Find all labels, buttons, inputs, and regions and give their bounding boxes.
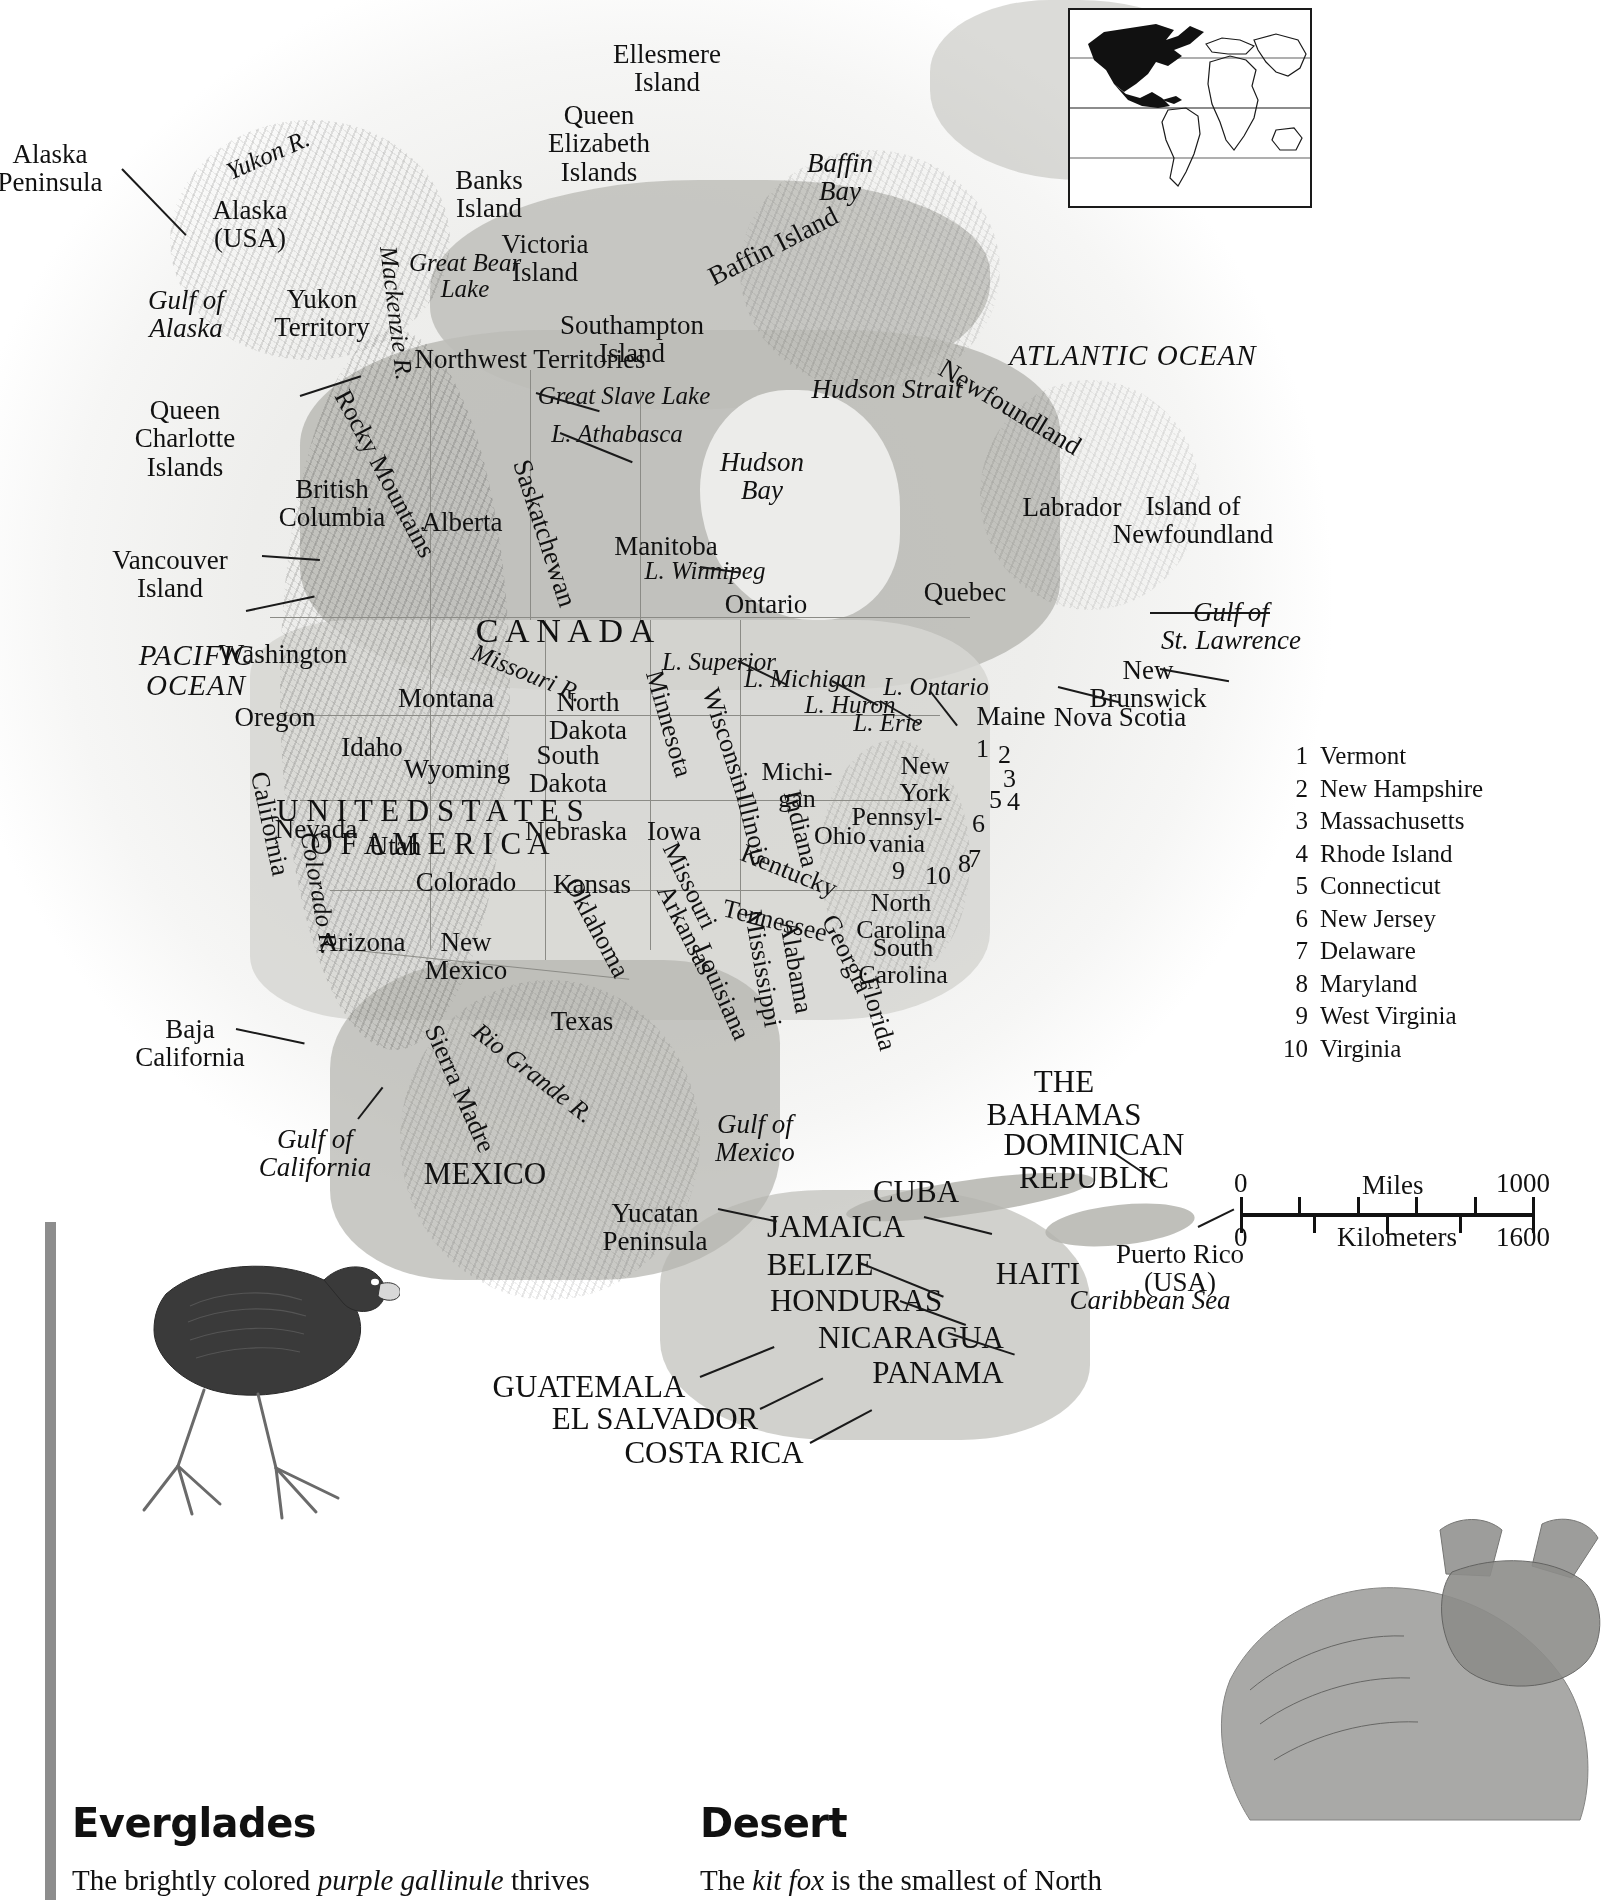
- label-line-1: Texas: [551, 1007, 614, 1035]
- label-line-1: L. Athabasca: [551, 421, 683, 447]
- leader-line: [1150, 612, 1270, 614]
- label-line-1: New: [1090, 656, 1207, 684]
- legend-row: 1Vermont: [1270, 740, 1483, 773]
- label-line-1: South: [858, 934, 948, 961]
- border-state-vertical-1: [430, 620, 431, 950]
- legend-row: 9West Virginia: [1270, 1000, 1483, 1033]
- scale-miles-max: 1000: [1496, 1169, 1550, 1197]
- label-alberta: Alberta: [422, 508, 503, 536]
- label-line-1: Victoria: [502, 230, 589, 258]
- legend-label: West Virginia: [1320, 1000, 1457, 1033]
- legend-row: 5Connecticut: [1270, 870, 1483, 903]
- label-line-2: St. Lawrence: [1161, 626, 1301, 654]
- map-number-4: 4: [1007, 788, 1020, 815]
- map-scale-bar: Miles 0 1000 Kilometers 0 1600: [1240, 1175, 1540, 1255]
- label-yukon-territory: YukonTerritory: [274, 285, 370, 342]
- legend-row: 3Massachusetts: [1270, 805, 1483, 838]
- label-line-1: North: [856, 889, 946, 916]
- label-atlantic-ocean: ATLANTIC OCEAN: [1009, 340, 1256, 370]
- world-locator-inset[interactable]: [1068, 8, 1312, 208]
- label-oregon: Oregon: [235, 703, 316, 731]
- label-line-1: Yucatan: [603, 1199, 708, 1227]
- scale-tick-miles: [1415, 1197, 1418, 1217]
- label-costa-rica: COSTA RICA: [624, 1437, 803, 1470]
- label-line-1: Montana: [398, 684, 494, 712]
- legend-number: 5: [1270, 870, 1320, 903]
- label-line-1: Colorado: [416, 868, 517, 896]
- legend-label: Virginia: [1320, 1033, 1401, 1066]
- legend-row: 10Virginia: [1270, 1033, 1483, 1066]
- label-panama: PANAMA: [872, 1357, 1004, 1390]
- label-honduras: HONDURAS: [770, 1285, 942, 1318]
- label-line-1: Gulf of: [148, 286, 224, 314]
- everglades-body-pre: The brightly colored: [72, 1864, 318, 1896]
- label-line-1: NICARAGUA: [818, 1322, 1004, 1355]
- label-line-1: Labrador: [1023, 493, 1122, 521]
- atlas-page-north-america: PACIFIC OCEAN ATLANTIC OCEAN Gulf ofAlas…: [0, 0, 1620, 1900]
- scale-tick-kilometers: [1313, 1213, 1316, 1233]
- legend-number: 4: [1270, 838, 1320, 871]
- map-number-1: 1: [976, 735, 989, 762]
- map-number-5: 5: [989, 786, 1002, 813]
- label-line-1: GUATEMALA: [493, 1371, 686, 1404]
- label-labrador: Labrador: [1023, 493, 1122, 521]
- label-belize: BELIZE: [767, 1249, 874, 1282]
- kit-fox-illustration: [1190, 1480, 1620, 1900]
- legend-number: 8: [1270, 968, 1320, 1001]
- label-line-1: Baja: [135, 1015, 244, 1043]
- label-line-1: Oregon: [235, 703, 316, 731]
- label-line-1: Island of: [1113, 492, 1273, 520]
- legend-number: 9: [1270, 1000, 1320, 1033]
- legend-label: Rhode Island: [1320, 838, 1453, 871]
- desert-heading: Desert: [700, 1800, 847, 1846]
- label-nicaragua: NICARAGUA: [818, 1322, 1004, 1355]
- label-line-2: Peninsula: [0, 168, 103, 196]
- label-line-1: Nova Scotia: [1054, 703, 1187, 731]
- label-line-1: Wyoming: [404, 755, 510, 783]
- label-line-3: Islands: [548, 158, 650, 186]
- label-maine: Maine: [977, 702, 1046, 730]
- label-gulf-of-st-lawrence: Gulf ofSt. Lawrence: [1161, 598, 1301, 655]
- label-line-1: BELIZE: [767, 1249, 874, 1282]
- legend-number: 3: [1270, 805, 1320, 838]
- legend-number: 7: [1270, 935, 1320, 968]
- label-line-1: Manitoba: [614, 532, 717, 560]
- label-guatemala: GUATEMALA: [493, 1371, 686, 1404]
- label-line-1: Queen: [135, 396, 235, 424]
- label-line-1: COSTA RICA: [624, 1437, 803, 1470]
- label-line-1: Alaska: [0, 140, 103, 168]
- label-line-2: California: [135, 1043, 244, 1071]
- label-cuba: CUBA: [873, 1176, 959, 1209]
- label-south-dakota: SouthDakota: [529, 741, 607, 798]
- label-island-of-newfoundland: Island ofNewfoundland: [1113, 492, 1273, 549]
- label-line-1: JAMAICA: [767, 1211, 905, 1244]
- label-line-1: Alberta: [422, 508, 503, 536]
- label-line-2: Bay: [720, 476, 804, 504]
- scale-tick-miles: [1298, 1197, 1301, 1217]
- label-line-2: Island: [112, 574, 227, 602]
- label-new-york: NewYork: [900, 752, 951, 807]
- label-queen-elizabeth-islands: QueenElizabethIslands: [548, 101, 650, 186]
- label-ontario: Ontario: [725, 590, 807, 618]
- desert-body-post: is the smallest of North: [824, 1864, 1102, 1896]
- legend-row: 6New Jersey: [1270, 903, 1483, 936]
- label-manitoba: Manitoba: [614, 532, 717, 560]
- label-line-1: Alaska: [213, 196, 288, 224]
- label-nova-scotia: Nova Scotia: [1054, 703, 1187, 731]
- everglades-body-post: thrives: [504, 1864, 590, 1896]
- label-banks-island: BanksIsland: [455, 166, 523, 223]
- label-line-2: Alaska: [148, 314, 224, 342]
- label-line-1: ATLANTIC OCEAN: [1009, 340, 1256, 370]
- label-line-1: C A N A D A: [476, 613, 655, 649]
- label-line-1: Pennsyl-: [852, 803, 943, 830]
- label-canada: C A N A D A: [476, 613, 655, 649]
- label-line-1: Puerto Rico: [1116, 1240, 1244, 1268]
- everglades-body: The brightly colored purple gallinule th…: [72, 1862, 652, 1899]
- label-line-2: OCEAN: [139, 670, 253, 700]
- label-line-1: Gulf of: [715, 1110, 794, 1138]
- label-line-1: Quebec: [924, 578, 1006, 606]
- label-vancouver-island: VancouverIsland: [112, 546, 227, 603]
- label-line-1: DOMINICAN: [1004, 1129, 1185, 1162]
- label-great-slave-lake: Great Slave Lake: [538, 383, 711, 409]
- label-southampton-island: SouthamptonIsland: [560, 311, 704, 368]
